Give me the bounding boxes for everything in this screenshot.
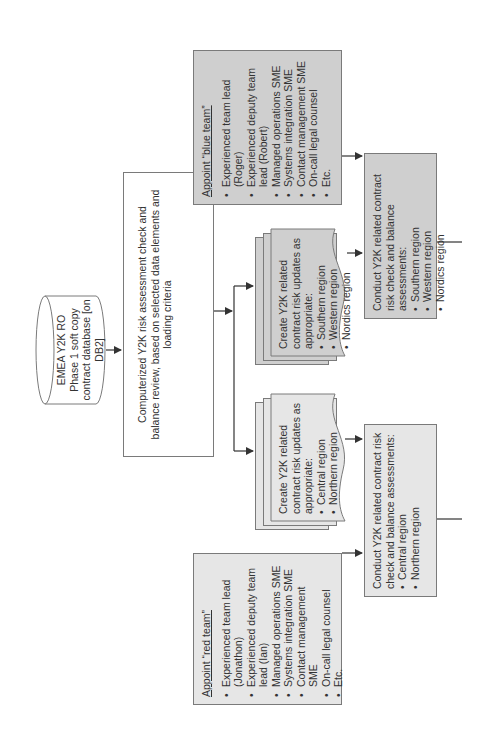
database-line-2: Phase 1 soft copy [68,295,81,405]
assess-blue-region: Southern region [409,161,422,311]
y2k-risk-flowchart: EMEA Y2K RO Phase 1 soft copy contract d… [0,0,482,731]
updates-red-stack: Create Y2K related contract risk updates… [255,393,347,530]
contract-database: EMEA Y2K RO Phase 1 soft copy contract d… [35,295,106,405]
blue-team-member: Contact management SME [295,58,308,197]
red-team-member: Experienced team lead (Jonathon) [220,561,245,697]
assess-blue-region: Western region [421,161,434,311]
assess-blue-intro: Conduct Y2K related contract risk check … [371,161,409,311]
red-team-member: Contact management SME [295,561,320,697]
updates-red-region: Central region [315,401,328,514]
updates-blue-region: Western region [327,236,340,349]
updates-blue-region: Southern region [315,236,328,349]
blue-team-member: On-call legal counsel [307,58,320,197]
red-team-member: Managed operations SME [270,561,283,697]
red-team-title: Appoint “red team” [200,561,213,697]
assess-red-region: Northern region [409,432,422,589]
blue-team-member: Managed operations SME [270,58,283,197]
database-line-3: contract database [on DB2] [80,295,105,405]
blue-team-member: Etc. [320,58,333,197]
assess-red-box: Conduct Y2K related contract risk check … [364,424,437,597]
blue-team-box: Appoint “blue team” Experienced team lea… [193,50,342,205]
updates-blue-region: Nordics region [340,236,353,349]
assess-red-intro: Conduct Y2K related contract risk check … [371,432,396,589]
updates-blue-stack: Create Y2K related contract risk updates… [255,228,347,365]
assess-blue-region: Nordics region [434,161,447,311]
red-team-box: Appoint “red team” Experienced team lead… [193,553,342,705]
updates-blue-intro: Create Y2K related contract risk updates… [277,236,315,349]
red-team-member: Experienced deputy team lead (Ian) [245,561,270,697]
review-step-box: Computerized Y2K risk assessment check a… [123,172,214,457]
assess-red-region: Central region [396,432,409,589]
updates-red-region: Northern region [327,401,340,514]
updates-red-intro: Create Y2K related contract risk updates… [277,401,315,514]
blue-team-title: Appoint “blue team” [200,58,213,197]
review-step-text: Computerized Y2K risk assessment check a… [136,190,173,440]
red-team-member: Etc. [332,561,345,697]
blue-team-member: Systems integration SME [282,58,295,197]
blue-team-member: Experienced deputy team lead (Robert) [245,58,270,197]
red-team-member: Systems integration SME [282,561,295,697]
database-line-1: EMEA Y2K RO [55,295,68,405]
blue-team-member: Experienced team lead (Roger) [220,58,245,197]
red-team-member: On-call legal counsel [320,561,333,697]
assess-blue-box: Conduct Y2K related contract risk check … [364,153,437,319]
